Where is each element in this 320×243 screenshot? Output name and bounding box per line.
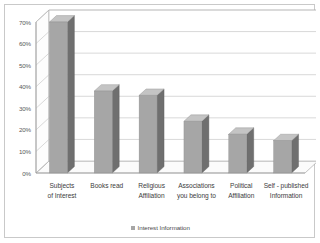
y-axis-tick-label: 0% <box>5 170 31 177</box>
category-label-line: Information <box>257 191 316 201</box>
category-label-line: of Interest <box>33 191 92 201</box>
bar-side-face <box>202 115 209 173</box>
bar-front-face <box>229 134 247 173</box>
bar-column <box>229 128 254 173</box>
x-axis-category-labels: Subjectsof InterestBooks readReligiousAf… <box>5 181 316 221</box>
y-axis-tick-label: 50% <box>5 62 31 69</box>
y-axis-tick-label: 30% <box>5 105 31 112</box>
bar-column <box>139 89 164 173</box>
chart-canvas <box>5 5 316 205</box>
chart-legend: Interest Information <box>5 224 316 231</box>
bar-column <box>274 134 299 173</box>
bar-column <box>49 16 74 173</box>
y-axis-tick-label: 40% <box>5 83 31 90</box>
bar-front-face <box>49 22 67 173</box>
y-axis-tick-label: 70% <box>5 19 31 26</box>
bar-side-face <box>112 85 119 173</box>
bar-column <box>184 115 209 173</box>
bar-side-face <box>247 128 254 173</box>
legend-series-label: Interest Information <box>138 224 190 231</box>
category-label-line: Self - published <box>257 181 316 191</box>
legend-square-marker <box>131 226 135 230</box>
plot-area: 0%10%20%30%40%50%60%70% <box>5 5 316 205</box>
plot-left-wall <box>36 10 49 173</box>
bar-front-face <box>184 121 202 173</box>
chart-frame: 0%10%20%30%40%50%60%70% Subjectsof Inter… <box>4 4 315 238</box>
bar-side-face <box>292 134 299 173</box>
bar-front-face <box>94 91 112 173</box>
y-axis-tick-label: 60% <box>5 40 31 47</box>
bar-column <box>94 85 119 173</box>
bar-front-face <box>274 141 292 173</box>
y-axis-tick-label: 10% <box>5 148 31 155</box>
bar-front-face <box>139 95 157 173</box>
y-axis-tick-label: 20% <box>5 126 31 133</box>
x-axis-category-label: Self - publishedInformation <box>257 181 316 200</box>
bar-side-face <box>67 16 74 173</box>
bar-side-face <box>157 89 164 173</box>
